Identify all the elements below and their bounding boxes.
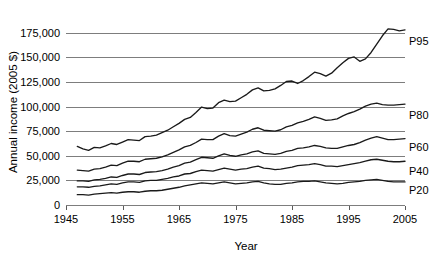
- y-tick-label-50000: 50,000: [26, 150, 60, 162]
- data-series-group: [77, 29, 405, 195]
- y-axis-title: Annual income (2005 $): [7, 51, 19, 173]
- y-tick-label-175000: 175,000: [20, 27, 60, 39]
- series-label-P95: P95: [409, 35, 429, 47]
- income-percentile-chart: 025,00050,00075,000100,000125,000150,000…: [0, 0, 440, 255]
- y-tick-label-0: 0: [54, 199, 60, 211]
- x-tick-label-1985: 1985: [280, 213, 304, 225]
- series-line-P80: [77, 103, 405, 171]
- series-label-P20: P20: [409, 184, 429, 196]
- series-line-P60: [77, 137, 405, 182]
- gridlines-group: [66, 34, 405, 181]
- x-tick-label-1945: 1945: [54, 213, 78, 225]
- x-tick-label-1995: 1995: [336, 213, 360, 225]
- series-line-P95: [77, 29, 405, 151]
- x-tick-label-1955: 1955: [110, 213, 134, 225]
- x-tick-label-2005: 2005: [393, 213, 417, 225]
- x-axis-title: Year: [234, 240, 257, 252]
- series-label-P80: P80: [409, 109, 429, 121]
- y-tick-label-100000: 100,000: [20, 101, 60, 113]
- x-tick-label-1975: 1975: [223, 213, 247, 225]
- x-tick-label-1965: 1965: [167, 213, 191, 225]
- axes-group: [66, 206, 406, 210]
- y-tick-label-25000: 25,000: [26, 174, 60, 186]
- y-tick-label-125000: 125,000: [20, 76, 60, 88]
- y-tick-label-150000: 150,000: [20, 51, 60, 63]
- y-tick-labels-group: 025,00050,00075,000100,000125,000150,000…: [20, 27, 60, 211]
- x-tick-labels-group: 1945195519651975198519952005: [54, 213, 417, 225]
- series-label-P40: P40: [409, 165, 429, 177]
- series-labels-group: P95P80P60P40P20: [409, 35, 429, 196]
- y-tick-label-75000: 75,000: [26, 125, 60, 137]
- series-label-P60: P60: [409, 141, 429, 153]
- chart-canvas: 025,00050,00075,000100,000125,000150,000…: [0, 0, 440, 255]
